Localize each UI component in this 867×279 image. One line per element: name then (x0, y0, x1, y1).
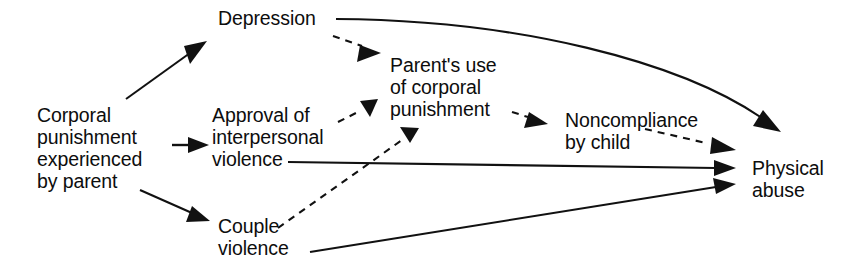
node-parents-use-corporal-punishment: Parent's use of corporal punishment (390, 54, 497, 120)
path-diagram-canvas: Corporal punishment experienced by paren… (0, 0, 867, 279)
edge-approval-to-parents-use (338, 99, 378, 122)
edge-parents-use-to-noncompliance (512, 112, 548, 128)
node-noncompliance-by-child: Noncompliance by child (565, 109, 698, 153)
node-couple-violence: Couple violence (218, 215, 289, 259)
edge-couple-violence-to-physical-abuse (310, 178, 736, 252)
node-physical-abuse: Physical abuse (752, 157, 824, 201)
edge-corporal-to-approval (172, 137, 209, 153)
edge-corporal-to-couple-violence (140, 190, 210, 222)
node-corporal-punishment-experienced: Corporal punishment experienced by paren… (37, 104, 142, 192)
edge-corporal-to-depression (126, 41, 207, 99)
node-depression: Depression (218, 7, 316, 29)
edge-depression-to-parents-use (333, 36, 381, 62)
node-approval-interpersonal-violence: Approval of interpersonal violence (212, 104, 323, 170)
